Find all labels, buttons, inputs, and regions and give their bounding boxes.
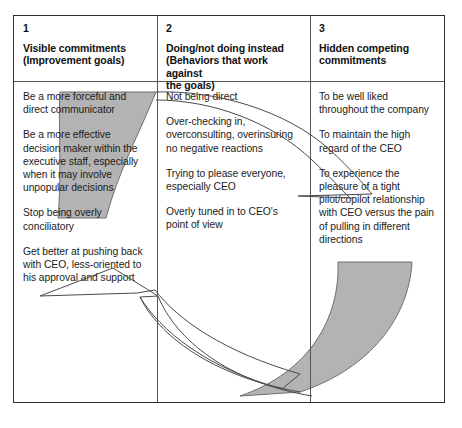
column-2-body: Not being direct Over-checking in, overc…	[157, 81, 310, 90]
column-2-entry-1: Not being direct	[166, 90, 302, 103]
column-2-entry-3: Trying to please everyone, especially CE…	[166, 167, 302, 193]
column-1-title-line-1: Visible commitments	[23, 42, 149, 54]
column-3-entry-2: To maintain the high regard of the CEO	[319, 128, 438, 154]
column-1-title: Visible commitments (Improvement goals)	[23, 42, 149, 67]
column-1-number: 1	[23, 22, 149, 34]
diagram-root: 1 Visible commitments (Improvement goals…	[0, 0, 462, 428]
column-3-entry-1: To be well liked throughout the company	[319, 90, 438, 116]
column-1-entry-1: Be a more forceful and direct communicat…	[23, 90, 149, 116]
column-2-entry-4: Overly tuned in to CEO's point of view	[166, 205, 302, 231]
column-2-entry-2: Over-checking in, overconsulting, overin…	[166, 115, 302, 155]
column-1-title-line-2: (Improvement goals)	[23, 54, 149, 66]
column-1-entry-3: Stop being overly conciliatory	[23, 206, 149, 232]
column-3-number: 3	[319, 22, 438, 34]
column-2-title-line-2: (Behaviors that work against	[166, 54, 302, 79]
column-1-body: Be a more forceful and direct communicat…	[14, 81, 157, 90]
column-3-body: To be well liked throughout the company …	[310, 81, 446, 90]
column-1-entry-4: Get better at pushing back with CEO, les…	[23, 245, 149, 285]
column-2-number: 2	[166, 22, 302, 34]
column-3-title-line-2: commitments	[319, 54, 438, 66]
column-3-title: Hidden competing commitments	[319, 42, 438, 67]
commitment-table: 1 Visible commitments (Improvement goals…	[13, 15, 445, 403]
column-2-title-line-1: Doing/not doing instead	[166, 42, 302, 54]
column-3-title-line-1: Hidden competing	[319, 42, 438, 54]
column-3-header: 3 Hidden competing commitments	[310, 16, 446, 81]
column-1-entry-2: Be a more effective decision maker withi…	[23, 128, 149, 194]
column-1-header: 1 Visible commitments (Improvement goals…	[14, 16, 157, 81]
column-2-header: 2 Doing/not doing instead (Behaviors tha…	[157, 16, 310, 81]
column-3-entry-3: To experience the pleasure of a tight pi…	[319, 167, 438, 246]
